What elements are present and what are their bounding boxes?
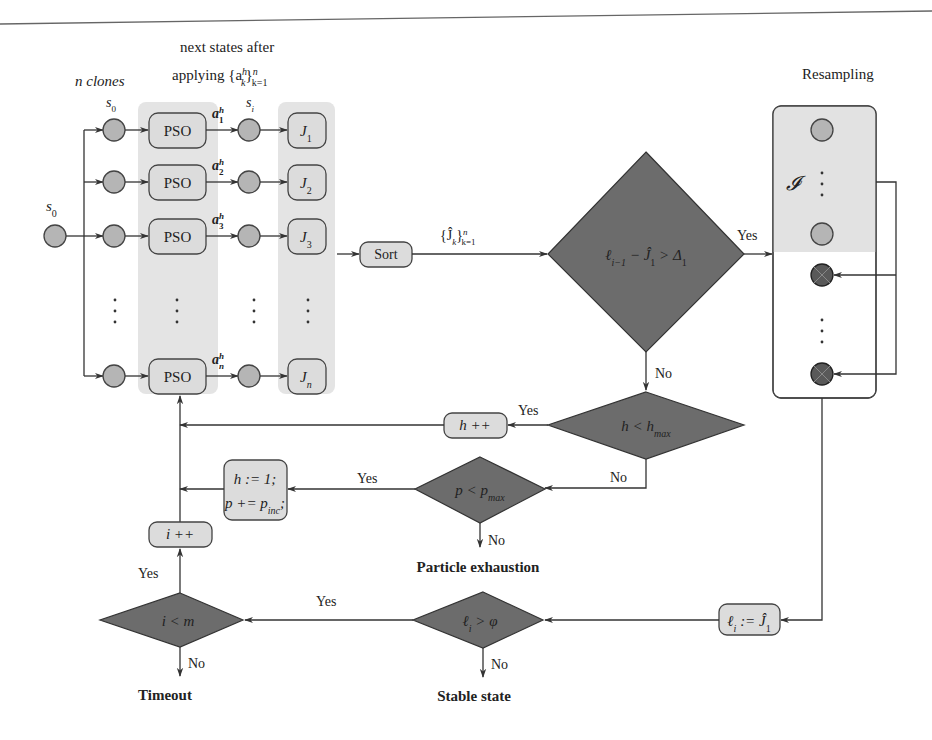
stability-yes-label: Yes bbox=[316, 594, 336, 609]
clone-node bbox=[103, 225, 125, 247]
svg-text:PSO: PSO bbox=[164, 369, 192, 385]
h-limit-yes-label: Yes bbox=[518, 403, 538, 418]
terminal-particle-exhaustion: Particle exhaustion bbox=[417, 559, 541, 575]
clone-node bbox=[103, 171, 125, 193]
h-limit-no-label: No bbox=[610, 470, 627, 485]
header-resampling: Resampling bbox=[802, 66, 874, 82]
svg-text:PSO: PSO bbox=[164, 175, 192, 191]
resampling-to-assign-arrow bbox=[781, 398, 822, 620]
top-rule bbox=[0, 11, 932, 24]
next-state-node bbox=[238, 225, 260, 247]
p-limit-no-label: No bbox=[488, 533, 505, 548]
reset-line-1: h := 1; bbox=[234, 471, 277, 487]
header-applying: applying {ahk}nk=1 bbox=[172, 66, 267, 88]
clone-node bbox=[103, 119, 125, 141]
discarded-particle bbox=[811, 264, 833, 286]
i-increment-label: i ++ bbox=[166, 526, 194, 542]
stability-no-label: No bbox=[491, 657, 508, 672]
next-state-node bbox=[238, 365, 260, 387]
svg-text:PSO: PSO bbox=[164, 123, 192, 139]
clone-state-label: s0 bbox=[106, 95, 116, 114]
clone-node bbox=[103, 365, 125, 387]
header-n-clones: n clones bbox=[75, 73, 125, 89]
terminal-stable-state: Stable state bbox=[437, 688, 511, 704]
next-state-node bbox=[238, 119, 260, 141]
next-state-node bbox=[238, 171, 260, 193]
survivor-particle bbox=[811, 223, 833, 245]
initial-state-label: s0 bbox=[46, 198, 57, 219]
h-limit-no-arrow bbox=[545, 459, 646, 488]
sorted-costs-label: {Ĵk}nk=1 bbox=[440, 227, 475, 247]
p-limit-yes-label: Yes bbox=[357, 471, 377, 486]
sort-label: Sort bbox=[374, 247, 397, 262]
h-increment-label: h ++ bbox=[459, 417, 491, 433]
discarded-particle bbox=[811, 363, 833, 385]
initial-state-node bbox=[44, 225, 66, 247]
iter-yes-label: Yes bbox=[138, 566, 158, 581]
svg-text:PSO: PSO bbox=[164, 229, 192, 245]
next-state-label: si bbox=[246, 95, 254, 114]
iter-no-label: No bbox=[188, 656, 205, 671]
iteration-condition: i < m bbox=[162, 613, 195, 629]
improvement-no-label: No bbox=[655, 366, 672, 381]
survivor-particle bbox=[811, 119, 833, 141]
header-next-states: next states after bbox=[180, 39, 274, 55]
terminal-timeout: Timeout bbox=[138, 687, 192, 703]
improvement-yes-label: Yes bbox=[737, 228, 757, 243]
flowchart: n clones next states after applying {ahk… bbox=[0, 0, 932, 740]
